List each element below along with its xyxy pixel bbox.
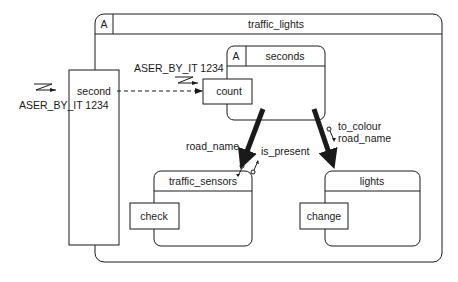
count-label: count <box>216 85 242 97</box>
second-label: second <box>77 85 111 97</box>
outer-title: traffic_lights <box>248 18 304 30</box>
signal-icon-internal <box>175 77 198 85</box>
external-signal-label: ASER_BY_IT 1234 <box>19 99 109 111</box>
outer-a-label: A <box>100 18 107 30</box>
signal-icon-external <box>34 84 56 92</box>
seconds-a-label: A <box>232 50 239 62</box>
change-label: change <box>307 210 342 222</box>
internal-signal-label: ASER_BY_IT 1234 <box>134 62 224 74</box>
lights-title: lights <box>360 175 385 187</box>
is-present-label: is_present <box>261 145 310 157</box>
traffic-sensors-title: traffic_sensors <box>169 175 237 187</box>
road-name-right-label: road_name <box>338 132 391 144</box>
couple-icon-is-present <box>251 160 259 174</box>
to-colour-label: to_colour <box>338 120 382 132</box>
couple-icon-to-colour <box>327 127 336 142</box>
diagram-canvas: A traffic_lights second A seconds count … <box>0 0 458 282</box>
check-label: check <box>140 210 168 222</box>
seconds-title: seconds <box>265 50 304 62</box>
road-name-left-label: road_name <box>186 140 239 152</box>
